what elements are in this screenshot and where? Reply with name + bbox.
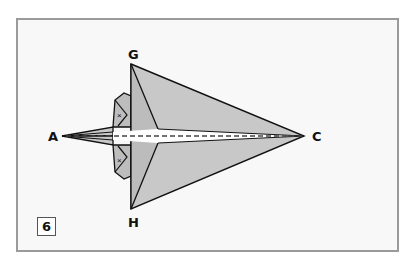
label-h: H [128, 215, 139, 230]
tail-top [62, 127, 113, 136]
origami-diagram: × × A C G H [0, 0, 412, 264]
step-number-badge: 6 [37, 217, 56, 236]
label-g: G [128, 47, 139, 62]
label-c: C [312, 129, 322, 144]
label-a: A [48, 129, 58, 144]
lower-flap-x-mark: × [117, 156, 122, 165]
upper-flap-x-mark: × [117, 111, 122, 120]
tail-bottom [62, 136, 113, 145]
